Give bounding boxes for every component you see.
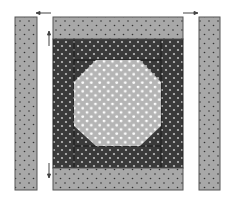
right-side-strip	[199, 17, 220, 190]
arrow-up-left-icon	[48, 31, 51, 46]
bottom-border-strip	[53, 168, 183, 190]
left-side-strip	[15, 17, 37, 190]
top-border-strip	[53, 17, 183, 39]
arrow-down-left-icon	[48, 163, 51, 178]
arrow-right-top-icon	[183, 12, 198, 15]
quilt-assembly-diagram	[0, 0, 231, 199]
center-block	[53, 17, 183, 190]
arrow-left-top-icon	[36, 12, 51, 15]
octagon-center	[74, 60, 161, 146]
